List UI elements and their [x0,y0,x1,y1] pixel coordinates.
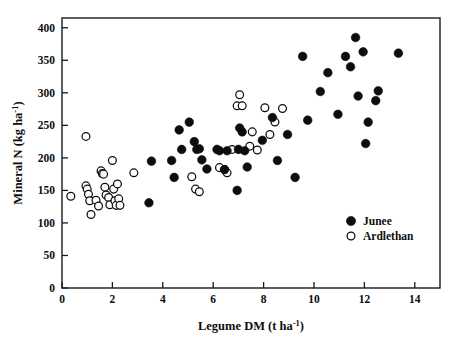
data-point-junee [175,126,184,135]
data-point-junee [354,92,363,101]
data-point-ardlethan [261,104,269,112]
data-point-junee [177,145,186,154]
data-point-ardlethan [116,201,124,209]
x-axis-ticks: 02468101214 [59,282,421,305]
data-point-junee [195,144,204,153]
data-point-junee [291,173,300,182]
y-axis-title: Mineral N (kg ha-1) [10,101,25,204]
chart-legend: Junee Ardlethan [346,215,414,242]
y-tick-label: 200 [38,152,56,164]
data-point-junee [203,165,212,174]
data-point-junee [298,52,307,61]
data-point-junee [170,173,179,182]
data-point-ardlethan [188,173,196,181]
legend-marker-ardlethan [347,232,355,240]
data-point-ardlethan [109,157,117,165]
x-tick-label: 0 [59,293,65,305]
x-tick-label: 4 [160,293,166,305]
x-axis-title: Legume DM (t ha-1) [198,318,304,333]
data-point-junee [283,130,292,139]
data-point-junee [316,87,325,96]
y-tick-label: 100 [38,217,56,229]
data-point-junee [303,116,312,125]
data-point-ardlethan [87,211,95,219]
data-point-junee [334,110,343,119]
y-tick-label: 150 [38,184,56,196]
data-point-ardlethan [82,133,90,141]
data-point-ardlethan [95,202,103,210]
data-point-ardlethan [279,105,287,113]
data-point-junee [223,146,232,155]
plot-frame [62,18,440,288]
data-point-junee [198,156,207,165]
data-point-junee [361,139,370,148]
data-point-junee [268,113,277,122]
y-tick-label: 50 [44,249,56,261]
data-point-junee [185,118,194,127]
data-point-junee [374,87,383,96]
data-point-junee [190,137,199,146]
data-point-ardlethan [253,146,261,154]
data-point-junee [359,48,368,57]
x-tick-label: 2 [110,293,116,305]
y-tick-label: 350 [38,54,56,66]
y-tick-label: 400 [38,22,56,34]
data-point-junee [273,156,282,165]
data-point-junee [346,62,355,71]
data-point-junee [341,52,350,61]
data-point-ardlethan [114,180,122,188]
x-tick-label: 10 [308,293,320,305]
data-point-junee [324,68,333,77]
legend-marker-junee [346,216,355,225]
data-point-junee [240,146,249,155]
x-tick-label: 14 [409,293,421,305]
scatter-plot-figure: 050100150200250300350400 02468101214 Jun… [0,0,462,344]
x-tick-label: 6 [210,293,216,305]
legend-label-ardlethan: Ardlethan [363,230,414,242]
data-point-junee [243,163,252,172]
chart-canvas: 050100150200250300350400 02468101214 Jun… [0,0,462,344]
data-point-ardlethan [238,102,246,110]
data-point-ardlethan [195,188,203,196]
x-tick-label: 8 [261,293,267,305]
data-point-junee [233,186,242,195]
legend-label-junee: Junee [363,215,392,227]
y-axis-ticks: 050100150200250300350400 [38,22,68,294]
series-ardlethan-points [67,91,286,219]
data-point-ardlethan [248,128,256,136]
data-point-junee [145,198,154,207]
data-point-junee [238,128,247,137]
data-point-junee [394,49,403,58]
data-point-junee [220,165,229,174]
data-point-junee [167,156,176,165]
data-point-ardlethan [130,169,138,177]
series-junee-points [145,33,403,207]
data-point-junee [258,136,267,145]
data-point-ardlethan [101,183,109,191]
y-tick-label: 0 [49,282,55,294]
data-point-ardlethan [67,192,75,200]
data-point-junee [351,33,360,42]
data-point-junee [147,157,156,166]
data-point-junee [371,96,380,105]
y-tick-label: 250 [38,119,56,131]
x-tick-label: 12 [359,293,371,305]
data-point-ardlethan [266,131,274,139]
data-point-ardlethan [236,91,244,99]
data-point-junee [364,118,373,127]
data-point-ardlethan [100,170,108,178]
y-tick-label: 300 [38,87,56,99]
